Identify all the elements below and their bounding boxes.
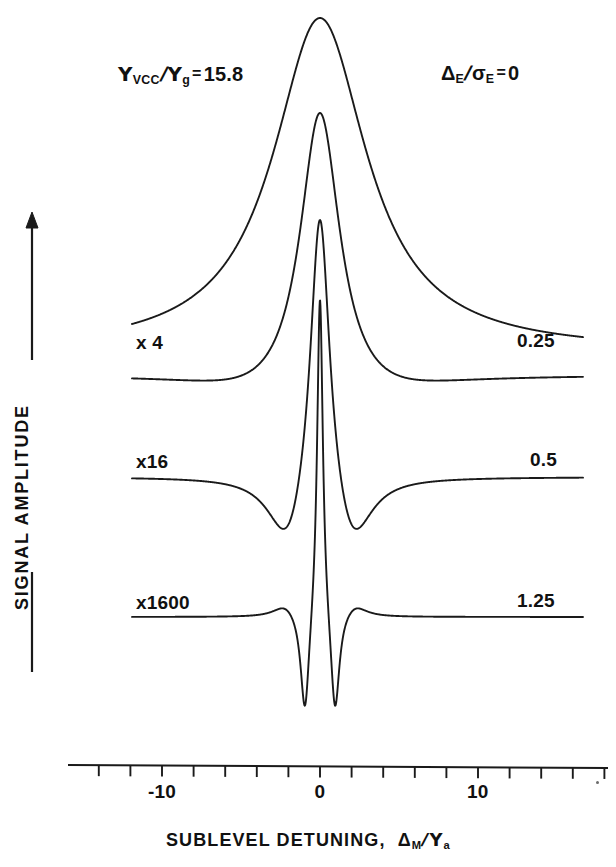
y-axis-title: SIGNAL AMPLITUDE: [12, 404, 33, 610]
curves-group: [132, 18, 583, 706]
curve-multiplier-label-2: x16: [136, 451, 168, 473]
equals-sign-2: =: [494, 64, 508, 81]
curve-ratio-label-3: 1.25: [517, 590, 555, 612]
curve-multiplier-label-3: x1600: [136, 592, 190, 614]
x-axis-title-text: SUBLEVEL DETUNING,: [166, 830, 386, 850]
curve-ratio-label-2: 0.5: [530, 449, 557, 471]
delta-e-symbol: Δ: [441, 62, 456, 84]
x-tick-label-minus10: -10: [148, 781, 176, 803]
gamma-ratio-value: 15.8: [204, 63, 244, 85]
up-arrow-icon: [26, 212, 38, 228]
figure-root: ΥVCC/Υg=15.8 ΔE/σE=0 x 4 x16 x1600 0.25 …: [0, 0, 616, 867]
curve-gamma_ratio_0p5: [132, 220, 583, 529]
param-annotation-delta-sigma: ΔE/σE=0: [441, 62, 519, 86]
gamma-a-subscript: a: [444, 839, 451, 851]
scan-artifact-speck: [596, 781, 599, 784]
plot-canvas: [0, 0, 616, 867]
delta-sigma-value: 0: [508, 62, 519, 84]
x-axis-group: [68, 765, 608, 779]
equals-sign: =: [190, 65, 204, 82]
curve-gamma_ratio_0p25: [132, 113, 583, 381]
param-annotation-gamma-ratio: ΥVCC/Υg=15.8: [118, 62, 243, 87]
curve-gamma_ratio_1p25: [132, 300, 583, 705]
x-tick-label-zero: 0: [315, 781, 326, 803]
x-axis-line: [68, 765, 608, 768]
curve-multiplier-label-1: x 4: [136, 332, 163, 354]
x-axis-title: SUBLEVEL DETUNING, ΔM/Υa: [166, 829, 450, 851]
gamma-vcc-symbol: Υ: [118, 62, 133, 86]
x-tick-label-ten: 10: [467, 781, 489, 803]
curve-ratio-label-1: 0.25: [517, 330, 555, 352]
delta-m-symbol: Δ: [392, 830, 412, 850]
gamma-g-subscript: g: [182, 73, 190, 87]
